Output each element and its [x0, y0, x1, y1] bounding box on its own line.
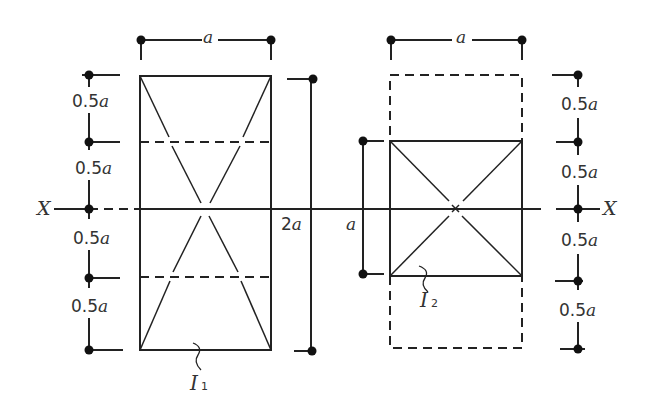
left-seg-label-1: 0.5a	[72, 93, 109, 110]
i2-height-label: a	[346, 216, 356, 233]
i1-height-label: 2a	[281, 216, 302, 233]
diagram-canvas	[0, 0, 652, 413]
left-seg-label-2: 0.5a	[75, 160, 112, 177]
i2-width-label: a	[456, 29, 466, 46]
left-seg-label-3: 0.5a	[73, 230, 110, 247]
right-seg-label-3: 0.5a	[561, 232, 598, 249]
right-seg-label-4: 0.5a	[559, 302, 596, 319]
i1-label: I1	[190, 373, 208, 393]
i1-width-label: a	[203, 29, 213, 46]
i2-label: I2	[420, 290, 438, 310]
right-seg-label-1: 0.5a	[561, 96, 598, 113]
right-seg-label-2: 0.5a	[561, 164, 598, 181]
i2-dashed-outline	[390, 75, 522, 348]
x-axis-label-left: X	[37, 199, 51, 218]
left-seg-label-4: 0.5a	[71, 298, 108, 315]
x-axis-label-right: X	[603, 199, 617, 218]
